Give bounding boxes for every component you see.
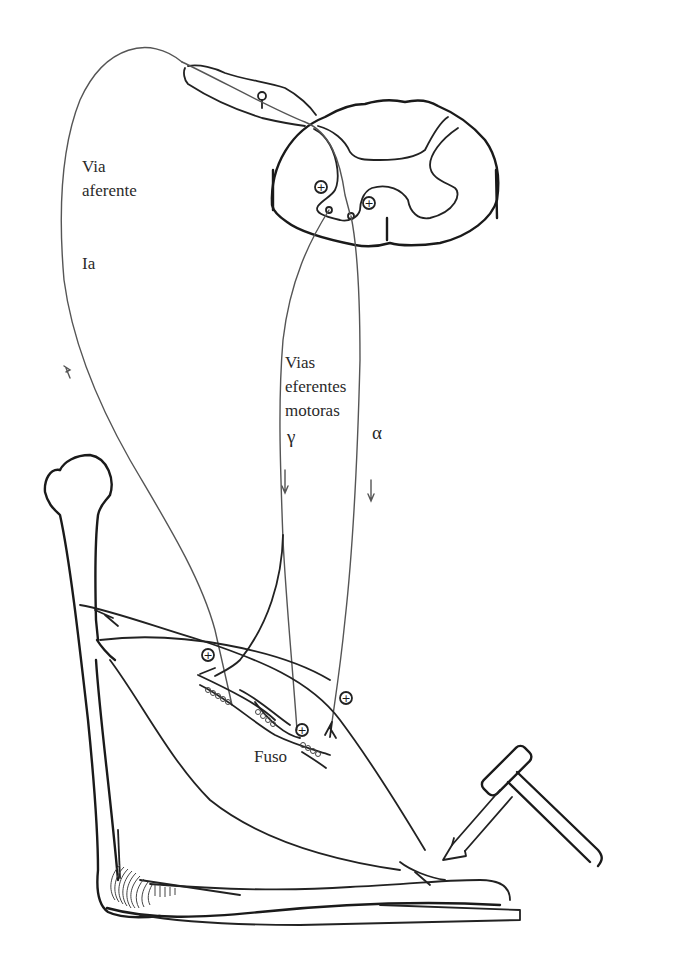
label-afferent-line2: aferente xyxy=(82,180,137,202)
femur xyxy=(45,455,160,917)
label-efferent-line2: eferentes xyxy=(285,376,346,398)
label-efferent-line3: motoras xyxy=(285,400,340,422)
label-afferent-line1: Via xyxy=(82,156,106,178)
tendon-insertion xyxy=(111,865,175,908)
label-alpha: α xyxy=(372,422,382,444)
svg-text:+: + xyxy=(341,692,350,705)
quadriceps-muscle xyxy=(80,605,425,870)
stimulus-arrow-icon xyxy=(443,790,512,860)
gamma-motor-fiber xyxy=(280,210,329,730)
label-efferent-line1: Vias xyxy=(285,352,315,374)
svg-text:+: + xyxy=(364,197,373,210)
reflex-hammer-icon xyxy=(479,743,601,866)
svg-text:+: + xyxy=(297,724,306,737)
label-spindle: Fuso xyxy=(254,746,287,768)
svg-text:+: + xyxy=(316,181,325,194)
alpha-motor-fiber xyxy=(332,216,360,722)
label-gamma: γ xyxy=(287,426,295,448)
gamma-arrow-icon xyxy=(282,470,288,493)
svg-text:+: + xyxy=(203,649,212,662)
tibia xyxy=(107,862,520,925)
alpha-arrow-icon xyxy=(368,480,374,501)
stretch-reflex-diagram: + + xyxy=(0,0,690,970)
label-afferent-fiber-ia: Ia xyxy=(82,253,95,275)
